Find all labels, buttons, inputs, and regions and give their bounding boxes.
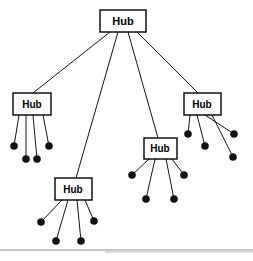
leaf-node-hub-right-0 xyxy=(184,130,191,137)
leaf-node-hub-middle-2 xyxy=(170,195,177,202)
leaf-edge-hub-left-2 xyxy=(33,115,37,159)
hub-bottom-label: Hub xyxy=(63,184,82,195)
leaf-node-hub-left-1 xyxy=(22,155,29,162)
leaf-node-hub-right-3 xyxy=(229,153,236,160)
uplink-edge-hub-left xyxy=(33,32,110,93)
leaf-node-hub-middle-0 xyxy=(128,171,135,178)
leaf-node-hub-right-1 xyxy=(201,142,208,149)
hub-left: Hub xyxy=(13,93,51,115)
leaf-node-hub-left-2 xyxy=(33,155,40,162)
leaf-node-hub-bottom-2 xyxy=(77,237,84,244)
footer-rules-layer xyxy=(0,250,253,252)
hub-left-label: Hub xyxy=(22,99,41,110)
topology-canvas: HubHubHubHubHub xyxy=(0,0,253,261)
leaf-node-hub-left-3 xyxy=(45,142,52,149)
hub-middle: Hub xyxy=(144,138,177,159)
leaf-node-hub-bottom-0 xyxy=(37,218,44,225)
hub-nodes-layer: HubHubHubHubHub xyxy=(13,10,221,200)
hub-right-label: Hub xyxy=(192,99,211,110)
hub-right: Hub xyxy=(184,93,221,115)
leaf-edge-hub-bottom-0 xyxy=(41,200,62,222)
leaf-node-hub-bottom-3 xyxy=(90,217,97,224)
leaf-node-hub-bottom-1 xyxy=(52,237,59,244)
leaf-node-hub-left-0 xyxy=(10,142,17,149)
leaf-edge-hub-left-0 xyxy=(14,115,19,146)
leaf-edge-hub-bottom-1 xyxy=(56,200,68,241)
hub-bottom: Hub xyxy=(55,178,92,200)
leaf-node-hub-right-2 xyxy=(230,130,237,137)
leaf-edge-hub-middle-2 xyxy=(166,159,174,199)
root-hub-label: Hub xyxy=(112,15,134,27)
leaf-edge-hub-right-2 xyxy=(205,115,234,134)
leaf-edge-hub-left-3 xyxy=(43,115,49,146)
hub-topology-diagram: HubHubHubHubHub xyxy=(0,0,253,261)
leaf-edge-hub-right-1 xyxy=(197,115,205,146)
root-hub: Hub xyxy=(100,10,146,32)
leaf-edge-hub-right-3 xyxy=(212,115,233,157)
hub-middle-label: Hub xyxy=(150,143,169,154)
leaf-edge-hub-bottom-2 xyxy=(77,200,81,241)
leaf-edge-hub-middle-1 xyxy=(146,159,155,199)
leaf-node-hub-middle-3 xyxy=(180,171,187,178)
uplink-edge-hub-right xyxy=(137,32,198,93)
leaf-nodes-layer xyxy=(10,130,237,244)
edges-layer xyxy=(14,32,234,241)
leaf-node-hub-middle-1 xyxy=(142,195,149,202)
